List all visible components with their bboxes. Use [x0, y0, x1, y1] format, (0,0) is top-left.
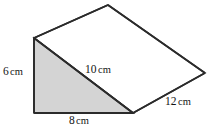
base-dimension-value: 8 — [69, 114, 75, 126]
geometry-figure: 6cm 8cm 10cm 12cm — [0, 0, 210, 134]
depth-dimension-unit: cm — [178, 96, 191, 107]
height-dimension-unit: cm — [10, 66, 23, 77]
slant-dimension-label: 10cm — [85, 64, 111, 76]
slant-dimension-value: 10 — [85, 63, 97, 75]
height-dimension-value: 6 — [3, 65, 9, 77]
slant-dimension-unit: cm — [98, 64, 111, 75]
base-dimension-label: 8cm — [69, 115, 89, 127]
depth-dimension-value: 12 — [165, 95, 177, 107]
base-dimension-unit: cm — [76, 115, 89, 126]
height-dimension-label: 6cm — [3, 66, 23, 78]
depth-dimension-label: 12cm — [165, 96, 191, 108]
